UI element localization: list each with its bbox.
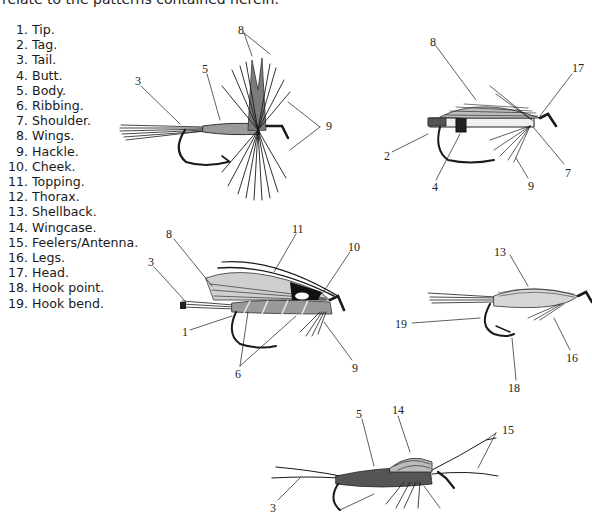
callout-wings: 8 bbox=[238, 24, 244, 36]
callout-ribbing: 6 bbox=[235, 368, 241, 380]
callout-butt: 4 bbox=[432, 181, 438, 193]
callout-hook-point: 18 bbox=[508, 382, 520, 394]
callout-body: 5 bbox=[202, 63, 208, 75]
callout-tail: 3 bbox=[148, 256, 154, 268]
callout-hackle: 9 bbox=[326, 120, 332, 132]
callout-hackle: 9 bbox=[528, 180, 534, 192]
callout-wings: 8 bbox=[430, 36, 436, 48]
callout-head: 17 bbox=[572, 62, 584, 74]
callout-shoulder: 7 bbox=[565, 167, 571, 179]
dry-fly-illustration bbox=[120, 33, 320, 200]
callout-legs: 16 bbox=[566, 352, 578, 364]
streamer-fly-illustration bbox=[154, 234, 352, 366]
callout-wingcase: 14 bbox=[392, 404, 404, 416]
callout-hackle: 9 bbox=[352, 362, 358, 374]
callout-tail: 3 bbox=[270, 502, 276, 512]
shellback-nymph-illustration bbox=[412, 255, 592, 380]
callout-cheek: 10 bbox=[348, 241, 360, 253]
callout-feelers: 15 bbox=[502, 424, 514, 436]
callout-tail: 3 bbox=[135, 75, 141, 87]
callout-topping: 11 bbox=[292, 223, 304, 235]
callout-wings: 8 bbox=[166, 228, 172, 240]
callout-hook-bend: 19 bbox=[395, 318, 407, 330]
callout-tag: 2 bbox=[384, 150, 390, 162]
callout-shellback: 13 bbox=[494, 246, 506, 258]
wet-fly-illustration bbox=[392, 46, 572, 180]
wingcase-nymph-illustration bbox=[272, 416, 498, 510]
callout-tip: 1 bbox=[182, 326, 188, 338]
callout-body: 5 bbox=[356, 408, 362, 420]
